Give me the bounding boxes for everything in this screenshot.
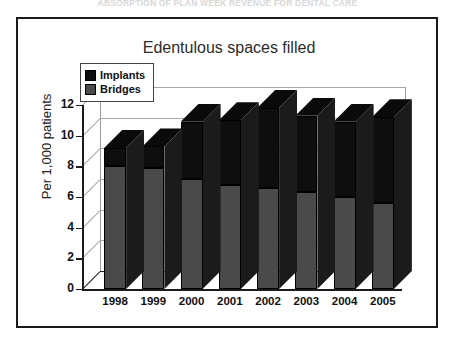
plot-area: 024681012 Per 1,000 patients 19981999200… [18,19,440,330]
bar-segment-bridges [219,185,241,289]
depth-edge [82,118,101,137]
bar-side-face [356,104,374,289]
bar-segment-bridges [181,179,203,289]
legend-swatch-implants [85,70,96,81]
x-axis-line [82,289,402,291]
depth-edge [82,240,101,259]
y-tick-label: 0 [48,281,74,295]
y-tick-mark [76,289,83,290]
legend-label-implants: Implants [100,69,145,81]
y-tick-mark [76,197,83,198]
depth-edge [82,210,101,229]
bar-side-face [203,104,221,289]
y-tick-mark [76,136,83,137]
legend-label-bridges: Bridges [100,83,141,95]
bar-segment-implants [219,120,241,184]
y-axis-label: Per 1,000 patients [39,57,54,237]
bar-segment-implants [334,122,356,197]
depth-edge [82,179,101,198]
bar-side-face [317,98,335,289]
bar-segment-implants [104,148,126,166]
x-tick-label: 2005 [361,295,405,307]
depth-edge [82,148,101,167]
bar-side-face [126,130,144,289]
bar-side-face [164,128,182,289]
chart-figure: ABSORPTION OF PLAN WEEK REVENUE FOR DENT… [0,0,455,345]
bar-side-face [241,102,259,289]
legend-swatch-bridges [85,84,96,95]
bar-segment-bridges [104,166,126,289]
bar-segment-implants [142,146,164,167]
depth-edge-floor [82,271,101,290]
y-tick-label: 2 [48,250,74,264]
bar-side-face [394,99,412,289]
y-tick-mark [76,258,83,259]
legend-item-bridges: Bridges [85,83,149,95]
y-tick-mark [76,228,83,229]
legend-item-implants: Implants [85,69,149,81]
figure-frame: Edentulous spaces filled 024681012 Per 1… [16,17,438,328]
bar-side-face [279,90,297,289]
bar-segment-implants [257,108,279,188]
bar-segment-implants [372,117,394,203]
y-tick-mark [76,166,83,167]
bar-segment-bridges [257,188,279,289]
bar-segment-implants [295,116,317,193]
chart-legend: Implants Bridges [80,63,154,102]
bar-segment-bridges [372,203,394,289]
bar-segment-bridges [334,197,356,289]
bar-segment-bridges [142,168,164,289]
bar-segment-bridges [295,192,317,289]
page-caption-cropped: ABSORPTION OF PLAN WEEK REVENUE FOR DENT… [0,0,455,8]
y-tick-mark [76,105,83,106]
bar-segment-implants [181,122,203,179]
